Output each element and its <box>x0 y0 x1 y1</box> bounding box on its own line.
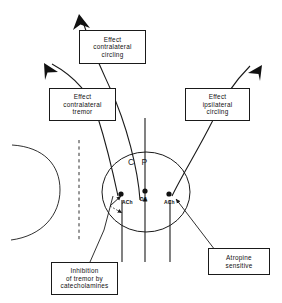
callout-line-1: Effect <box>74 93 92 101</box>
arrowhead-icon-top <box>73 14 90 30</box>
callout-line-1: Inhibition <box>70 267 98 275</box>
callout-line-2: ipsilateral <box>203 101 233 109</box>
nt-label-da-center: DA <box>140 197 147 202</box>
leader-inhibition-upper <box>104 196 113 230</box>
callout-line-1: Atropine <box>226 254 252 262</box>
nt-label-ach-right: ACh <box>164 200 175 205</box>
synaptic-terminal-dot-icon <box>142 188 147 193</box>
callout-line-3: circling <box>102 51 124 59</box>
callout-effect-contralateral-tremor[interactable]: Effect contralateral tremor <box>49 88 116 121</box>
leader-inhibition-to-cp <box>90 230 104 262</box>
callout-line-2: of tremor by <box>66 275 103 283</box>
callout-effect-contralateral-circling[interactable]: Effect contralateral circling <box>79 30 146 64</box>
figure-canvas: C P ACh DA ACh Effect contralateral circ… <box>0 0 282 303</box>
callout-line-3: tremor <box>73 108 93 116</box>
callout-line-2: contralateral <box>93 43 131 51</box>
leader-lines <box>90 196 215 262</box>
arrowhead-icon-left <box>44 63 58 80</box>
contralateral-hemisphere-arc-icon <box>11 145 60 240</box>
region-label-caudate-putamen: C P <box>128 158 150 167</box>
callout-effect-ipsilateral-circling[interactable]: Effect ipsilateral circling <box>185 88 250 121</box>
arrowhead-icon-right <box>248 65 262 81</box>
callout-line-3: circling <box>207 108 229 116</box>
leader-atropine-to-ach <box>176 199 215 250</box>
callout-atropine-sensitive[interactable]: Atropine sensitive <box>208 248 270 275</box>
nt-label-ach-left: ACh <box>122 200 133 205</box>
synaptic-terminal-dot-icon <box>118 191 123 196</box>
synaptic-terminal-dot-icon <box>166 191 171 196</box>
ipsilateral-circling-pathway <box>172 66 250 196</box>
da-neuron-pathway <box>142 118 147 262</box>
callout-line-1: Effect <box>209 93 227 101</box>
callout-line-2: sensitive <box>225 262 252 270</box>
callout-line-1: Effect <box>104 36 122 44</box>
callout-line-3: catecholamines <box>61 282 109 290</box>
callout-line-2: contralateral <box>63 101 101 109</box>
callout-inhibition-of-tremor[interactable]: Inhibition of tremor by catecholamines <box>51 262 118 295</box>
